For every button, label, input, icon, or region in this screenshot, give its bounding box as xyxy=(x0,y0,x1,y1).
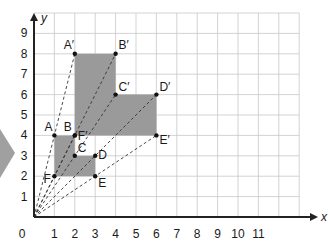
vertex-dot xyxy=(73,133,77,137)
vertex-label: B′ xyxy=(119,38,130,52)
x-tick-label: 0 xyxy=(19,227,26,241)
vertex-label: E′ xyxy=(159,133,170,147)
vertex-dot xyxy=(113,52,117,56)
vertex-label: A xyxy=(44,120,52,134)
x-tick-label: 3 xyxy=(92,227,99,241)
x-axis-label: x xyxy=(320,210,328,224)
y-tick-label: 5 xyxy=(21,108,28,122)
x-axis-arrow-icon xyxy=(310,213,318,221)
vertex-dot xyxy=(73,154,77,158)
y-tick-label: 6 xyxy=(21,88,28,102)
y-axis-arrow-icon xyxy=(30,13,38,21)
vertex-label: B xyxy=(64,120,72,134)
vertex-label: C′ xyxy=(119,80,131,94)
vertex-dot xyxy=(154,92,158,96)
y-tick-label: 3 xyxy=(21,149,28,163)
vertex-label: F xyxy=(43,172,50,186)
y-tick-label: 4 xyxy=(21,128,28,142)
y-tick-label: 9 xyxy=(21,26,28,40)
y-tick-label: 1 xyxy=(21,190,28,204)
vertex-dot xyxy=(113,92,117,96)
vertex-dot xyxy=(52,174,56,178)
vertex-label: F′ xyxy=(78,129,88,143)
vertex-dot xyxy=(154,133,158,137)
vertex-dot xyxy=(52,133,56,137)
y-tick-label: 7 xyxy=(21,67,28,81)
vertex-label: D′ xyxy=(159,80,171,94)
y-tick-label: 8 xyxy=(21,47,28,61)
x-tick-label: 11 xyxy=(252,227,265,241)
x-tick-label: 2 xyxy=(71,227,78,241)
pointer-arrow-icon xyxy=(0,129,15,178)
y-tick-label: 2 xyxy=(21,169,28,183)
x-tick-label: 8 xyxy=(194,227,201,241)
y-axis-label: y xyxy=(40,11,48,25)
vertex-label: A′ xyxy=(64,38,75,52)
vertex-dot xyxy=(93,174,97,178)
x-tick-label: 4 xyxy=(112,227,119,241)
vertex-label: D xyxy=(98,148,107,162)
x-tick-label: 9 xyxy=(214,227,221,241)
enlargement-diagram: xy 01234567891011123456789 ABCDEFA′B′C′D… xyxy=(0,0,328,249)
x-tick-label: 7 xyxy=(173,227,180,241)
x-tick-label: 10 xyxy=(231,227,245,241)
x-tick-label: 5 xyxy=(133,227,140,241)
x-tick-label: 6 xyxy=(153,227,160,241)
vertex-dot xyxy=(73,52,77,56)
vertex-label: E xyxy=(98,176,106,190)
x-tick-label: 1 xyxy=(51,227,58,241)
vertex-dot xyxy=(93,154,97,158)
